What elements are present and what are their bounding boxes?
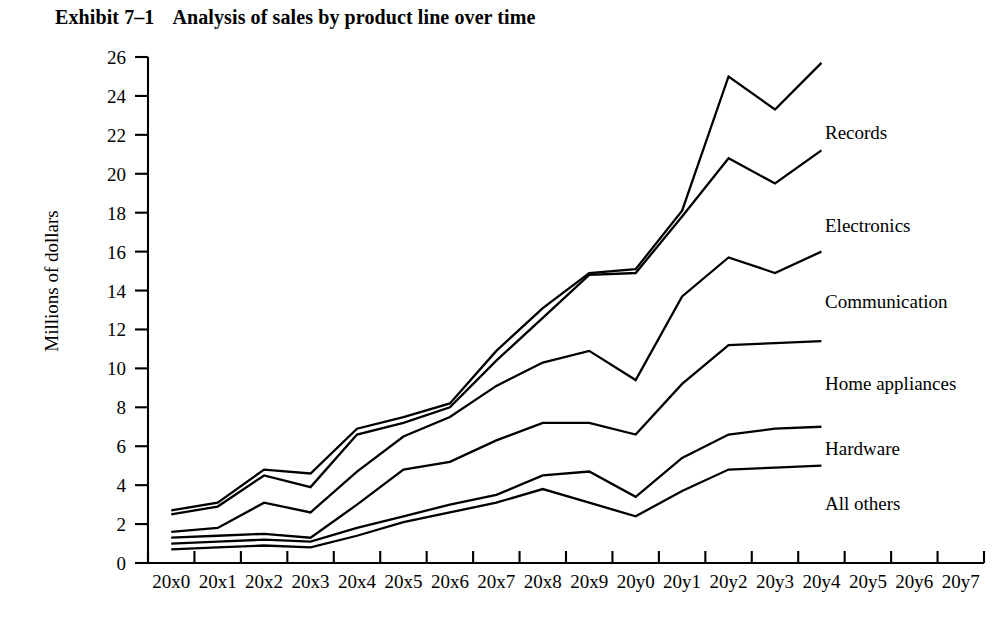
- y-axis-ticks: 02468101214161820222426: [107, 47, 148, 574]
- line-chart-plot: 02468101214161820222426 20x020x120x220x3…: [0, 0, 1008, 627]
- y-tick-label: 26: [107, 47, 126, 68]
- y-tick-label: 18: [107, 203, 126, 224]
- y-tick-label: 6: [117, 436, 127, 457]
- y-tick-label: 2: [117, 514, 127, 535]
- series-line: [171, 341, 821, 538]
- y-tick-label: 4: [117, 475, 127, 496]
- x-tick-label: 20y6: [895, 571, 933, 592]
- x-tick-label: 20x2: [245, 571, 283, 592]
- y-tick-label: 16: [107, 242, 126, 263]
- series-label: Records: [825, 122, 887, 143]
- y-tick-label: 22: [107, 125, 126, 146]
- chart-page: Exhibit 7–1Analysis of sales by product …: [0, 0, 1008, 627]
- series-labels-group: RecordsElectronicsCommunicationHome appl…: [825, 122, 956, 514]
- x-tick-label: 20x7: [477, 571, 515, 592]
- y-tick-label: 10: [107, 358, 126, 379]
- x-tick-label: 20y4: [802, 571, 841, 592]
- x-tick-label: 20x5: [384, 571, 422, 592]
- x-tick-label: 20y0: [617, 571, 655, 592]
- x-tick-label: 20y7: [942, 571, 980, 592]
- y-tick-label: 12: [107, 319, 126, 340]
- y-tick-label: 20: [107, 164, 126, 185]
- x-tick-label: 20y5: [849, 571, 887, 592]
- x-tick-label: 20y1: [663, 571, 701, 592]
- y-tick-label: 8: [117, 397, 127, 418]
- series-label: Communication: [825, 291, 948, 312]
- x-tick-label: 20x9: [570, 571, 608, 592]
- y-tick-label: 0: [117, 553, 127, 574]
- series-label: Home appliances: [825, 373, 956, 394]
- x-tick-label: 20x3: [292, 571, 330, 592]
- x-tick-label: 20x1: [199, 571, 237, 592]
- series-lines-group: [171, 63, 821, 550]
- x-tick-label: 20x6: [431, 571, 469, 592]
- series-label: All others: [825, 493, 900, 514]
- series-line: [171, 427, 821, 544]
- x-tick-label: 20y3: [756, 571, 794, 592]
- series-line: [171, 63, 821, 511]
- x-axis-ticks: 20x020x120x220x320x420x520x620x720x820x9…: [148, 551, 984, 592]
- y-tick-label: 24: [107, 86, 127, 107]
- y-tick-label: 14: [107, 281, 127, 302]
- series-label: Electronics: [825, 215, 910, 236]
- series-label: Hardware: [825, 438, 900, 459]
- x-tick-label: 20x0: [152, 571, 190, 592]
- x-tick-label: 20x4: [338, 571, 377, 592]
- series-line: [171, 150, 821, 514]
- x-tick-label: 20y2: [710, 571, 748, 592]
- x-tick-label: 20x8: [524, 571, 562, 592]
- series-line: [171, 252, 821, 532]
- series-line: [171, 466, 821, 550]
